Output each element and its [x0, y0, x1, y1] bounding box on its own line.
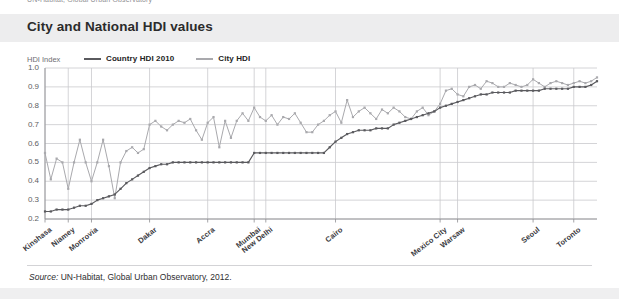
footer-band	[0, 288, 619, 299]
x-axis-tick-labels: KinshasaNiameyMonroviaDakarAccraMumbaiNe…	[0, 0, 619, 299]
x-tick-label-toronto: Toronto	[554, 225, 582, 250]
x-tick-label-dakar: Dakar	[136, 225, 158, 245]
source-text: UN-Habitat, Global Urban Observatory, 20…	[58, 272, 231, 282]
x-tick-label-seoul: Seoul	[520, 225, 542, 245]
x-tick-label-cairo: Cairo	[323, 225, 344, 244]
source-note: Source: UN-Habitat, Global Urban Observa…	[29, 272, 232, 282]
source-label: Source:	[29, 272, 58, 282]
footer-divider	[27, 265, 592, 266]
x-tick-label-accra: Accra	[194, 225, 216, 245]
x-tick-label-kinshasa: Kinshasa	[21, 225, 53, 253]
